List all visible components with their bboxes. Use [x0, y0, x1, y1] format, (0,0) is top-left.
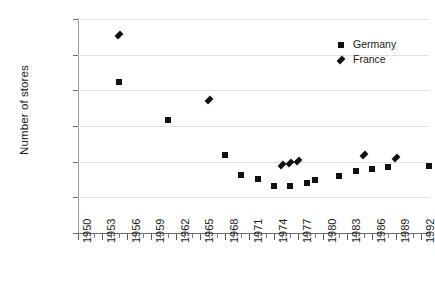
chart-legend: Germany France	[336, 37, 396, 67]
x-tick-major	[102, 234, 103, 240]
legend-label-france: France	[350, 52, 386, 67]
x-tick-minor	[94, 234, 95, 238]
y-tick-mark	[73, 55, 78, 56]
data-point-germany	[222, 152, 228, 158]
y-tick-mark	[73, 19, 78, 20]
x-tick-minor	[405, 234, 406, 238]
x-tick-minor	[241, 234, 242, 238]
x-tick-label: 1968	[229, 219, 240, 243]
x-tick-label: 1971	[253, 219, 264, 243]
x-tick-minor	[307, 234, 308, 238]
x-tick-label: 1965	[204, 219, 215, 243]
chart-figure: Number of stores 200,000300,000400,00050…	[0, 0, 435, 287]
x-tick-minor	[290, 234, 291, 238]
gridline	[78, 197, 429, 198]
data-point-germany	[312, 177, 318, 183]
x-tick-minor	[160, 234, 161, 238]
y-tick-mark	[73, 90, 78, 91]
x-tick-minor	[111, 234, 112, 238]
x-tick-major	[274, 234, 275, 240]
x-tick-label: 1950	[82, 219, 93, 243]
legend-item-france: France	[336, 52, 396, 67]
data-point-germany	[165, 117, 171, 123]
x-tick-minor	[356, 234, 357, 238]
data-point-france	[359, 150, 368, 159]
gridline	[78, 126, 429, 127]
gridline	[78, 90, 429, 91]
data-point-germany	[287, 183, 293, 189]
x-tick-minor	[168, 234, 169, 238]
x-tick-label: 1977	[302, 219, 313, 243]
x-tick-major	[151, 234, 152, 240]
x-tick-minor	[184, 234, 185, 238]
x-tick-major	[249, 234, 250, 240]
x-tick-major	[225, 234, 226, 240]
legend-label-germany: Germany	[350, 37, 396, 52]
x-tick-minor	[364, 234, 365, 238]
gridline	[78, 19, 429, 20]
x-tick-minor	[209, 234, 210, 238]
x-tick-major	[323, 234, 324, 240]
x-tick-label: 1956	[131, 219, 142, 243]
x-tick-minor	[331, 234, 332, 238]
y-tick-mark	[73, 197, 78, 198]
x-tick-minor	[258, 234, 259, 238]
x-tick-minor	[315, 234, 316, 238]
x-tick-label: 1989	[400, 219, 411, 243]
x-tick-label: 1980	[327, 219, 338, 243]
x-tick-minor	[282, 234, 283, 238]
x-tick-minor	[233, 234, 234, 238]
data-point-germany	[116, 79, 122, 85]
y-tick-mark	[73, 162, 78, 163]
x-tick-minor	[413, 234, 414, 238]
x-tick-label: 1992	[425, 219, 435, 243]
x-tick-minor	[429, 234, 430, 238]
data-point-germany	[255, 176, 261, 182]
x-tick-minor	[380, 234, 381, 238]
x-tick-minor	[217, 234, 218, 238]
y-tick-mark	[73, 126, 78, 127]
x-tick-major	[200, 234, 201, 240]
y-axis-title: Number of stores	[18, 30, 30, 190]
x-tick-major	[372, 234, 373, 240]
data-point-germany	[336, 173, 342, 179]
x-tick-minor	[135, 234, 136, 238]
data-point-germany	[353, 168, 359, 174]
x-tick-minor	[119, 234, 120, 238]
x-tick-major	[396, 234, 397, 240]
x-tick-minor	[339, 234, 340, 238]
x-tick-minor	[388, 234, 389, 238]
x-tick-major	[347, 234, 348, 240]
x-tick-major	[298, 234, 299, 240]
data-point-france	[204, 96, 213, 105]
x-tick-minor	[86, 234, 87, 238]
gridline	[78, 162, 429, 163]
diamond-marker-icon	[336, 55, 350, 65]
data-point-germany	[385, 164, 391, 170]
x-tick-minor	[143, 234, 144, 238]
x-tick-label: 1959	[155, 219, 166, 243]
data-point-germany	[271, 183, 277, 189]
x-tick-major	[176, 234, 177, 240]
square-marker-icon	[336, 40, 350, 50]
x-tick-label: 1974	[278, 219, 289, 243]
x-tick-minor	[266, 234, 267, 238]
data-point-france	[294, 156, 303, 165]
x-tick-label: 1983	[351, 219, 362, 243]
x-tick-label: 1962	[180, 219, 191, 243]
x-tick-major	[421, 234, 422, 240]
legend-item-germany: Germany	[336, 37, 396, 52]
data-point-france	[114, 31, 123, 40]
x-tick-major	[78, 234, 79, 240]
data-point-germany	[369, 166, 375, 172]
x-tick-label: 1986	[376, 219, 387, 243]
data-point-germany	[304, 180, 310, 186]
x-tick-minor	[192, 234, 193, 238]
x-tick-label: 1953	[106, 219, 117, 243]
data-point-germany	[238, 172, 244, 178]
data-point-germany	[426, 163, 432, 169]
x-tick-major	[127, 234, 128, 240]
